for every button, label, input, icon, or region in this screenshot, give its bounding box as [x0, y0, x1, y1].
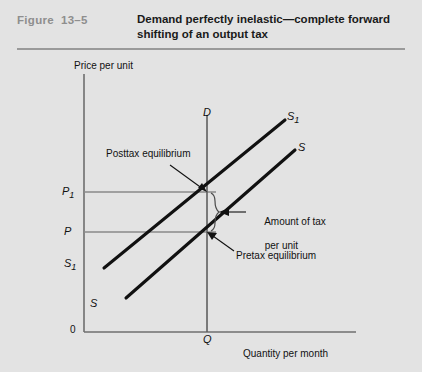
origin-label: 0 [70, 324, 76, 336]
chart-axes [84, 74, 356, 332]
supply-pretax-label-top: S [298, 141, 305, 153]
figure-title: Demand perfectly inelastic—complete forw… [137, 12, 407, 41]
tax-amount-label: Amount of tax per unit [248, 204, 326, 264]
supply-posttax-label-top: S1 [287, 110, 299, 126]
y-axis-label: Price per unit [74, 60, 133, 72]
posttax-equilibrium-leader [170, 165, 207, 192]
demand-curve-label: D [203, 106, 211, 118]
price-posttax-tick-label: P1 [62, 185, 74, 201]
quantity-tick-label: Q [203, 333, 212, 345]
x-axis-label: Quantity per month [243, 348, 328, 360]
figure-header: Figure 13–5 Demand perfectly inelastic—c… [0, 0, 422, 52]
tax-amount-label-line2: per unit [265, 240, 298, 251]
posttax-equilibrium-label: Posttax equilibrium [106, 148, 190, 160]
chart-plot-area: Price per unit Quantity per month D S1 S… [0, 52, 422, 372]
tax-amount-label-line1: Amount of tax [264, 216, 326, 227]
supply-posttax-label-bottom: S1 [64, 257, 76, 273]
price-pretax-tick-label: P [64, 225, 71, 237]
reference-lines [84, 192, 216, 232]
tax-amount-brace [211, 193, 219, 231]
figure-number: Figure 13–5 [17, 14, 88, 26]
header-divider [17, 48, 405, 50]
pretax-equilibrium-leader [207, 232, 234, 251]
figure-panel: Figure 13–5 Demand perfectly inelastic—c… [0, 0, 422, 372]
supply-pretax-label-bottom: S [90, 297, 97, 309]
chart-svg [0, 52, 422, 372]
